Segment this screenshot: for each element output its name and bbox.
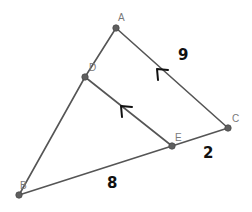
length-ac: 9: [178, 46, 188, 64]
point-d[interactable]: [82, 74, 88, 80]
segments: [19, 28, 228, 195]
point-e[interactable]: [169, 143, 175, 149]
point-labels: A D C E B: [20, 12, 239, 191]
parallel-marks: [121, 69, 168, 117]
label-e: E: [175, 132, 182, 143]
triangle-diagram: A D C E B 9 2 8: [0, 0, 252, 212]
length-ec: 2: [203, 144, 213, 162]
segment-de: [85, 77, 172, 146]
parallel-arrow-icon: [157, 69, 168, 80]
segment-ac: [116, 28, 228, 128]
points: [16, 25, 231, 198]
point-b[interactable]: [16, 192, 22, 198]
label-c: C: [232, 113, 239, 124]
length-be: 8: [107, 174, 117, 192]
point-a[interactable]: [113, 25, 119, 31]
label-d: D: [89, 62, 96, 73]
label-a: A: [118, 12, 125, 23]
label-b: B: [20, 180, 27, 191]
point-c[interactable]: [225, 125, 231, 131]
